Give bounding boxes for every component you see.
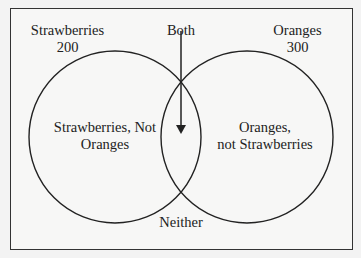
strawberries-only-label-line2: Oranges: [45, 136, 165, 153]
neither-label: Neither: [150, 214, 212, 231]
oranges-only-label-line2: not Strawberries: [205, 136, 325, 153]
both-label: Both: [158, 22, 204, 39]
oranges-only-label-line1: Oranges,: [205, 119, 325, 136]
arrow-head-icon: [176, 125, 186, 134]
oranges-title: Oranges: [265, 22, 330, 39]
strawberries-count: 200: [30, 39, 105, 56]
strawberries-title: Strawberries: [30, 22, 105, 39]
strawberries-only-label-line1: Strawberries, Not: [45, 119, 165, 136]
oranges-count: 300: [265, 39, 330, 56]
